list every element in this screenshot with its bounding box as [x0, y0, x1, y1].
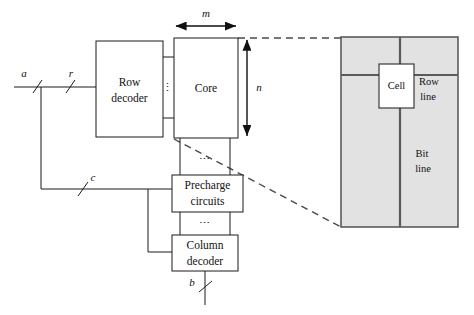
word-lines: ⋮: [162, 57, 174, 118]
row-decoder-box: [96, 41, 163, 137]
precharge-block: Precharge circuits: [172, 175, 243, 212]
bit-lines-lower-ellipsis: ⋯: [199, 217, 211, 229]
core-label: Core: [195, 82, 217, 94]
signal-label-a: a: [21, 67, 27, 79]
core-block: Core: [174, 38, 238, 138]
cell-label: Cell: [388, 80, 406, 91]
row-decoder-label-2: decoder: [111, 92, 148, 104]
memory-array-diagram: Cell Row line Bit line a r c: [0, 0, 474, 315]
bit-lines-core-precharge: ⋯: [180, 138, 230, 175]
row-line-label-2: line: [420, 91, 436, 102]
bit-line-label-1: Bit: [416, 148, 429, 159]
cell-detail-panel: Cell Row line Bit line: [341, 37, 458, 227]
column-decoder-block: Column decoder: [172, 235, 238, 271]
signal-label-r: r: [69, 67, 74, 79]
diagram-canvas: Cell Row line Bit line a r c: [0, 0, 474, 315]
bit-lines-upper-ellipsis: ⋯: [199, 153, 211, 165]
dimension-label-n: n: [256, 81, 262, 93]
bit-line-label-2: line: [415, 163, 431, 174]
data-bus-b: b: [189, 271, 212, 305]
word-lines-ellipsis: ⋮: [162, 81, 174, 93]
bit-lines-precharge-column: ⋯: [180, 212, 230, 235]
signal-label-b: b: [189, 276, 195, 288]
column-decoder-label-1: Column: [186, 239, 223, 251]
signal-label-c: c: [91, 171, 96, 183]
row-decoder-block: Row decoder: [96, 41, 163, 137]
row-line-label-1: Row: [419, 76, 439, 87]
precharge-label-1: Precharge: [185, 179, 231, 192]
row-decoder-label-1: Row: [119, 76, 141, 88]
column-decoder-label-2: decoder: [187, 255, 224, 267]
precharge-label-2: circuits: [191, 195, 225, 207]
dimension-label-m: m: [202, 7, 210, 19]
